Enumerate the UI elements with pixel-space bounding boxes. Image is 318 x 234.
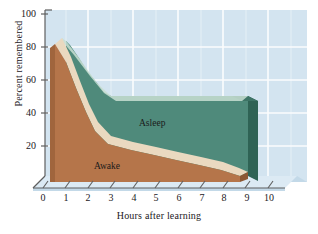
x-tick-label-6: 6	[169, 192, 189, 203]
x-tick-label-2: 2	[78, 192, 98, 203]
y-axis-title: Percent remembered	[13, 14, 24, 114]
awake-left-wall	[50, 44, 55, 182]
x-tick-label-9: 9	[237, 192, 257, 203]
x-tick-label-5: 5	[146, 192, 166, 203]
series-label-awake: Awake	[94, 161, 120, 171]
x-tick-label-0: 0	[33, 192, 53, 203]
y-tick-label-20: 20	[10, 140, 36, 151]
x-tick-label-7: 7	[192, 192, 212, 203]
series-label-asleep: Asleep	[139, 118, 165, 128]
x-tick-label-3: 3	[101, 192, 121, 203]
x-tick-label-1: 1	[56, 192, 76, 203]
x-tick-label-8: 8	[214, 192, 234, 203]
x-axis-title: Hours after learning	[0, 210, 318, 221]
x-tick-label-4: 4	[124, 192, 144, 203]
x-tick-label-10: 10	[259, 192, 279, 203]
asleep-end-wall	[248, 96, 258, 181]
chart-figure: 100 80 60 40 20 0 1 2 3 4 5 6 7 8 9 10 P…	[0, 0, 318, 234]
